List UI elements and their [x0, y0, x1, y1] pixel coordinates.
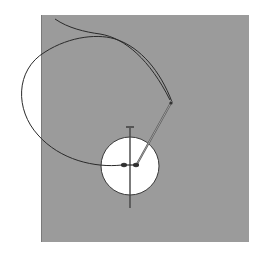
needle-eye: [169, 101, 172, 104]
thread-tail: [55, 19, 170, 100]
sewing-illustration: [0, 0, 260, 254]
